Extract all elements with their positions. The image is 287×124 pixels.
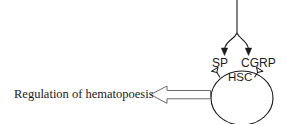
branch-right-line	[237, 33, 249, 49]
label-regulation-of-hematopoesis: Regulation of hematopoesis	[14, 88, 154, 101]
arrowhead-down-cgrp-icon	[245, 48, 251, 56]
diagram-figure: Regulation of hematopoesis SP CGRP HSC	[0, 0, 287, 124]
output-block-arrow-icon	[151, 86, 211, 103]
label-cgrp: CGRP	[241, 57, 276, 69]
label-hsc: HSC	[228, 72, 252, 84]
branch-left-line	[225, 33, 238, 49]
label-sp: SP	[212, 57, 228, 69]
arrowhead-down-sp-icon	[221, 48, 227, 56]
